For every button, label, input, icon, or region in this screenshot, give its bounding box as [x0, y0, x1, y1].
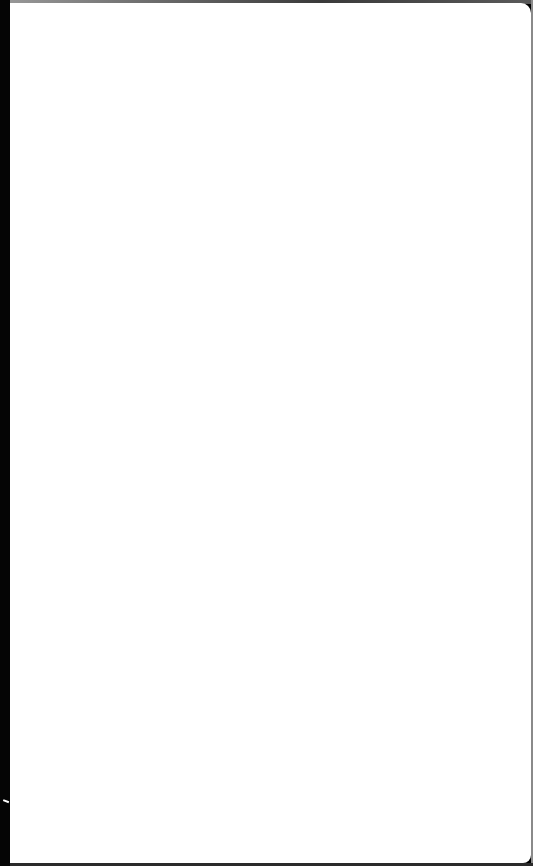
device-left-bezel [0, 0, 10, 866]
blank-screen[interactable] [10, 3, 531, 863]
